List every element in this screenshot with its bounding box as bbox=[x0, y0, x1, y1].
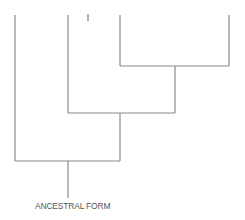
faint-mark bbox=[87, 14, 89, 21]
cladogram bbox=[0, 0, 245, 220]
root-label: ANCESTRAL FORM bbox=[35, 201, 110, 211]
